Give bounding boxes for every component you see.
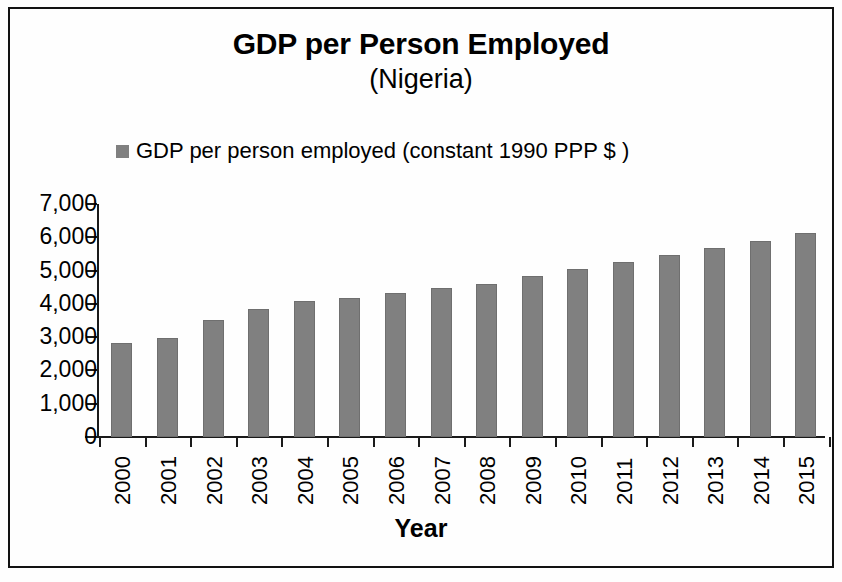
y-axis-tick-label: 0	[19, 425, 97, 448]
bar-2013	[704, 248, 725, 437]
x-axis-tick	[145, 437, 147, 447]
bar-2007	[431, 288, 452, 437]
bar-2010	[567, 269, 588, 437]
x-axis-label-2004: 2004	[295, 456, 317, 505]
x-axis-tick	[464, 437, 466, 447]
x-axis-tick	[281, 437, 283, 447]
x-axis-label-2002: 2002	[204, 456, 226, 505]
bar-2012	[659, 255, 680, 437]
bar-2003	[248, 309, 269, 437]
y-axis-tick-label: 7,000	[19, 192, 97, 215]
x-axis-label-2003: 2003	[249, 456, 271, 505]
bar-2002	[203, 320, 224, 437]
x-axis-label-2009: 2009	[523, 456, 545, 505]
x-axis-tick	[692, 437, 694, 447]
x-axis-tick	[783, 437, 785, 447]
bar-2011	[613, 262, 634, 437]
bar-2009	[522, 276, 543, 437]
bar-2004	[294, 301, 315, 437]
x-axis-tick	[236, 437, 238, 447]
x-axis-label-2008: 2008	[477, 456, 499, 505]
y-axis-line	[97, 204, 99, 438]
bar-2015	[795, 233, 816, 437]
x-axis-label-2010: 2010	[568, 456, 590, 505]
x-axis-label-2007: 2007	[432, 456, 454, 505]
y-axis-tick-label: 4,000	[19, 292, 97, 315]
x-axis-tick	[373, 437, 375, 447]
chart-figure: GDP per Person Employed (Nigeria) GDP pe…	[0, 0, 842, 582]
bar-2005	[339, 298, 360, 437]
x-axis-tick	[509, 437, 511, 447]
x-axis-tick	[737, 437, 739, 447]
x-axis-tick	[99, 437, 101, 447]
x-axis-tick	[327, 437, 329, 447]
x-axis-label-2012: 2012	[660, 456, 682, 505]
x-axis-tick	[829, 437, 831, 447]
x-axis-label-2014: 2014	[751, 456, 773, 505]
bar-2001	[157, 338, 178, 437]
x-axis-label-2005: 2005	[340, 456, 362, 505]
bar-2014	[750, 241, 771, 437]
x-axis-label-2006: 2006	[386, 456, 408, 505]
x-axis-tick	[646, 437, 648, 447]
y-axis-tick-label: 6,000	[19, 225, 97, 248]
x-axis-label-2015: 2015	[796, 456, 818, 505]
x-axis-tick	[601, 437, 603, 447]
x-axis-tick	[555, 437, 557, 447]
y-axis-tick-label: 3,000	[19, 325, 97, 348]
bar-2008	[476, 284, 497, 437]
x-axis-label-2000: 2000	[112, 456, 134, 505]
x-axis-tick	[418, 437, 420, 447]
bar-2006	[385, 293, 406, 437]
y-axis-tick-label: 2,000	[19, 358, 97, 381]
x-axis-tick	[190, 437, 192, 447]
x-axis-label-2011: 2011	[614, 458, 636, 505]
y-axis-tick-label: 1,000	[19, 392, 97, 415]
x-axis-title: Year	[0, 514, 842, 542]
x-axis-label-2001: 2001	[158, 456, 180, 505]
y-axis-tick-label: 5,000	[19, 259, 97, 282]
plot-area: 7,0006,0005,0004,0003,0002,0001,00002000…	[0, 0, 842, 582]
bar-2000	[111, 343, 132, 437]
x-axis-label-2013: 2013	[705, 456, 727, 505]
